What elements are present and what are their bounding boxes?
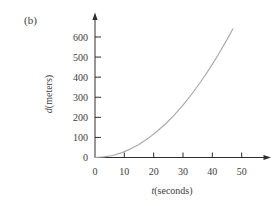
x-tick-label: 30: [178, 166, 188, 177]
y-tick-label: 600: [73, 32, 88, 43]
figure-panel-b: (b) 010203040500100200300400500600 d(met…: [0, 0, 277, 206]
y-tick-label: 300: [73, 92, 88, 103]
y-axis-arrow-icon: [92, 13, 97, 21]
y-tick-label: 100: [73, 132, 88, 143]
y-axis-unit: (meters): [43, 75, 54, 108]
x-tick-label: 40: [207, 166, 217, 177]
y-axis-variable: d: [43, 108, 54, 113]
y-tick-label: 400: [73, 72, 88, 83]
x-tick-label: 10: [119, 166, 129, 177]
x-axis-arrow-icon: [264, 155, 272, 160]
y-axis-label: d(meters): [43, 75, 54, 113]
y-tick-label: 200: [73, 112, 88, 123]
y-tick-label: 500: [73, 52, 88, 63]
distance-curve: [95, 29, 233, 158]
y-tick-label: 0: [83, 152, 88, 163]
x-axis-unit: (seconds): [154, 185, 192, 196]
x-tick-label: 50: [237, 166, 247, 177]
x-tick-label: 20: [149, 166, 159, 177]
x-tick-label: 0: [93, 166, 98, 177]
x-axis-label: t(seconds): [151, 185, 192, 196]
